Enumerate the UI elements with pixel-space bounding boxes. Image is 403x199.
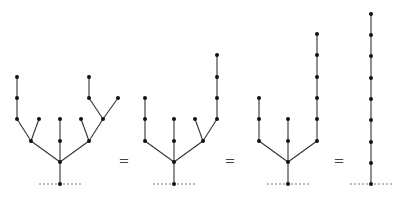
tree-1 xyxy=(15,75,120,186)
tree-node xyxy=(79,117,83,121)
tree-node xyxy=(257,139,261,143)
tree-node xyxy=(58,139,62,143)
tree-node xyxy=(369,54,373,58)
tree-node xyxy=(286,182,290,186)
tree-node xyxy=(172,160,176,164)
equals-sign-2: = xyxy=(225,154,236,167)
tree-node xyxy=(58,182,62,186)
tree-node xyxy=(257,117,261,121)
tree-node xyxy=(58,160,62,164)
tree-edge xyxy=(17,119,31,141)
tree-node xyxy=(215,75,219,79)
tree-node xyxy=(87,75,91,79)
tree-node xyxy=(286,139,290,143)
tree-node xyxy=(58,117,62,121)
tree-node xyxy=(315,32,319,36)
tree-node xyxy=(369,12,373,16)
tree-node xyxy=(215,53,219,57)
tree-node xyxy=(315,53,319,57)
tree-diagram: = = = xyxy=(0,0,403,199)
tree-edge xyxy=(145,141,174,162)
tree-node xyxy=(101,117,105,121)
tree-edge xyxy=(103,98,118,119)
equals-sign-1: = xyxy=(119,154,130,167)
tree-node xyxy=(15,75,19,79)
tree-node xyxy=(87,96,91,100)
tree-node xyxy=(286,160,290,164)
tree-node xyxy=(37,117,41,121)
tree-node xyxy=(15,96,19,100)
tree-edge xyxy=(31,141,60,162)
tree-node xyxy=(369,33,373,37)
tree-edge xyxy=(203,119,217,141)
tree-node xyxy=(369,140,373,144)
tree-node xyxy=(315,117,319,121)
tree-node xyxy=(286,117,290,121)
tree-node xyxy=(369,97,373,101)
tree-node xyxy=(315,139,319,143)
tree-node xyxy=(143,139,147,143)
tree-2 xyxy=(143,53,219,186)
tree-node xyxy=(215,117,219,121)
tree-node xyxy=(172,182,176,186)
tree-node xyxy=(15,117,19,121)
tree-node xyxy=(315,75,319,79)
tree-edge xyxy=(60,141,89,162)
tree-edge xyxy=(89,98,103,119)
tree-edge xyxy=(195,119,203,141)
tree-edge xyxy=(259,141,288,162)
tree-node xyxy=(116,96,120,100)
tree-edge xyxy=(89,119,103,141)
trees-svg xyxy=(0,0,403,199)
tree-node xyxy=(215,96,219,100)
tree-node xyxy=(315,96,319,100)
tree-node xyxy=(29,139,33,143)
tree-node xyxy=(172,139,176,143)
tree-node xyxy=(369,161,373,165)
tree-node xyxy=(201,139,205,143)
tree-edge xyxy=(288,141,317,162)
tree-node xyxy=(193,117,197,121)
tree-node xyxy=(369,76,373,80)
tree-node xyxy=(257,96,261,100)
tree-node xyxy=(369,118,373,122)
tree-node xyxy=(143,96,147,100)
tree-4 xyxy=(350,12,392,186)
tree-node xyxy=(172,117,176,121)
tree-edge xyxy=(31,119,39,141)
tree-node xyxy=(87,139,91,143)
tree-node xyxy=(143,117,147,121)
tree-3 xyxy=(257,32,319,186)
tree-edge xyxy=(174,141,203,162)
tree-edge xyxy=(81,119,89,141)
tree-node xyxy=(369,182,373,186)
equals-sign-3: = xyxy=(334,154,345,167)
